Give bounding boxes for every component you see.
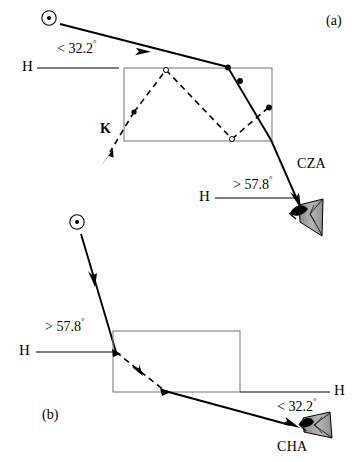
exit-angle-label-a: > 57.8° [233, 176, 273, 192]
entry-angle-value-b: > 57.8 [45, 319, 81, 334]
optics-ray-diagram: (a) H < 32.2° K H > 57.8° CZA (b) H > 57… [0, 0, 361, 462]
entry-angle-label-a: < 32.2° [57, 40, 97, 56]
degree-symbol-a-entry: ° [93, 38, 97, 48]
eye-icon-panel-a [289, 199, 323, 236]
exit-angle-value-b: < 32.2 [277, 399, 313, 414]
incident-ray-panel-b [81, 234, 116, 352]
sun-symbol-panel-a [42, 11, 56, 25]
panel-tag-b: (b) [42, 408, 58, 422]
degree-symbol-b-exit: ° [313, 396, 317, 406]
entry-angle-value-a: < 32.2 [57, 41, 93, 56]
internal-ray-path-a [134, 70, 269, 139]
exit-angle-value-a: > 57.8 [233, 177, 269, 192]
horizon-label-b-right: H [334, 383, 345, 398]
exit-angle-label-b: < 32.2° [277, 398, 317, 414]
cza-label: CZA [297, 157, 326, 171]
horizon-label-a-left: H [22, 59, 33, 74]
refracted-ray-a [228, 68, 271, 141]
horizon-label-b-left: H [19, 343, 30, 358]
crystal-label-k: K [100, 122, 111, 136]
panel-tag-a: (a) [326, 14, 342, 28]
horizon-label-a-right: H [199, 189, 210, 204]
ice-crystal-b [113, 331, 240, 392]
degree-symbol-b-entry: ° [81, 316, 85, 326]
ray-vertex-markers-a [131, 65, 272, 142]
degree-symbol-a-exit: ° [269, 174, 273, 184]
ray-diagram-canvas [0, 0, 361, 462]
eye-icon-panel-b [299, 412, 332, 438]
sun-symbol-panel-b [70, 215, 84, 229]
entry-angle-label-b: > 57.8° [45, 318, 85, 334]
cza-exit-ray [271, 140, 301, 209]
internal-ray-path-b [116, 352, 165, 391]
cha-label: CHA [277, 440, 307, 454]
